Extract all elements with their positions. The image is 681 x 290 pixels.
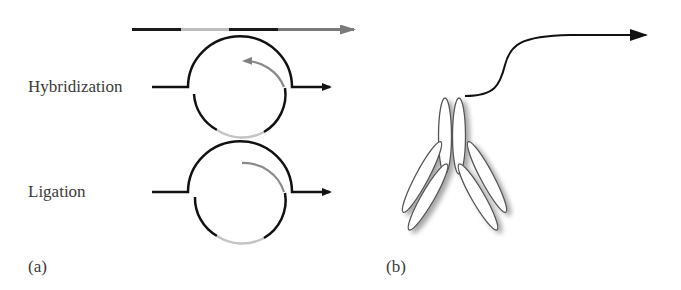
hybridization-label: Hybridization	[28, 78, 122, 95]
panel-b-tag: (b)	[386, 258, 406, 275]
ligation-padlock	[152, 141, 330, 243]
diagram-canvas	[0, 0, 681, 290]
dna-tail-arrow	[465, 35, 646, 96]
panel-a-tag: (a)	[28, 258, 47, 275]
hybridization-padlock	[152, 36, 330, 137]
antibody	[397, 98, 511, 233]
ligation-label: Ligation	[28, 183, 86, 200]
